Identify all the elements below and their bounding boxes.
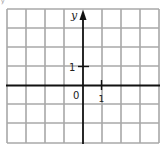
origin-label: 0 [73,90,79,101]
cropped-text-fragment: y [1,0,5,5]
x-tick-label: 1 [99,94,105,104]
y-tick-label: 1 [69,62,75,73]
y-axis-arrow-icon [80,10,87,21]
y-axis-label: y [70,9,78,22]
coordinate-grid-diagram: y y 1 0 1 [0,0,162,148]
